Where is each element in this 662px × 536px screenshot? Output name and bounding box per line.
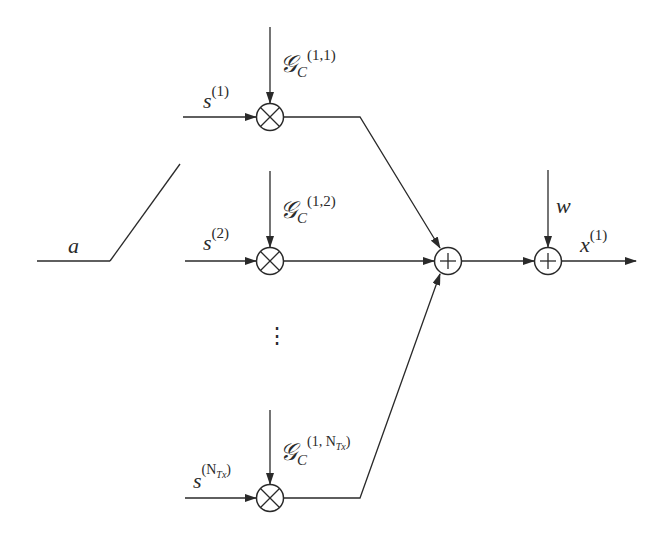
signal-flow-diagram: a s(1) 𝒢C(1,1) s(2) 𝒢C(1,2) ⋮	[0, 0, 662, 536]
adder-node-noise	[535, 248, 562, 275]
multiplier-node-n	[257, 485, 284, 512]
output-label: x(1)	[579, 227, 607, 257]
gain-label-2: 𝒢C(1,2)	[280, 193, 336, 226]
multiplier-node-2	[257, 248, 284, 275]
input-label-2: s(2)	[203, 225, 229, 255]
switch: a	[37, 164, 180, 261]
noise-label: w	[556, 193, 571, 218]
input-label-n: s(NTx)	[193, 462, 231, 493]
gain-label-1: 𝒢C(1,1)	[280, 47, 336, 80]
branch-2: s(2) 𝒢C(1,2)	[185, 171, 434, 275]
branch-1: s(1) 𝒢C(1,1)	[183, 27, 440, 248]
gain-label-n: 𝒢C(1, NTx)	[280, 434, 351, 468]
input-label-1: s(1)	[203, 83, 229, 113]
branch-n: s(NTx) 𝒢C(1, NTx)	[185, 274, 440, 512]
ellipsis: ⋮	[266, 323, 288, 348]
multiplier-node-1	[257, 104, 284, 131]
adder-node-branches	[435, 248, 462, 275]
switch-label: a	[68, 233, 79, 258]
